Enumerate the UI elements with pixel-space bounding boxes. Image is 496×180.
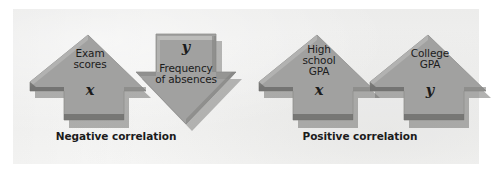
arrow-stem-base-shade (64, 114, 124, 120)
college-gpa-arrow-shape (362, 30, 496, 128)
caption-negative-correlation: Negative correlation (36, 130, 196, 142)
correlation-diagram-figure: Exam scores x (0, 0, 496, 180)
arrow-top-highlight (158, 36, 214, 40)
arrow-stem-base-shade (404, 114, 464, 120)
frequency-of-absences-arrow-shape (134, 27, 246, 133)
arrow-rect-right-shade (212, 36, 216, 72)
caption-positive-correlation: Positive correlation (280, 130, 440, 142)
arrow-right-arm-shade (464, 87, 486, 91)
group-negative-correlation: Exam scores x (0, 0, 248, 180)
college-gpa-arrow: College GPA y (362, 30, 496, 128)
arrow-rect-left-highlight (157, 36, 160, 72)
group-positive-correlation: High school GPA x College GPA y Positive… (248, 0, 496, 180)
frequency-of-absences-arrow: y Frequency of absences (134, 27, 246, 133)
arrow-stem-base-shade (293, 114, 353, 120)
